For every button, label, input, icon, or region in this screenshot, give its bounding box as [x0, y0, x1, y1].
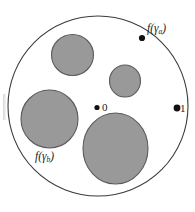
label-f-gamma-b: f(γb) [35, 151, 54, 163]
inner-disk-left [21, 90, 78, 148]
point-f-gamma-a [139, 35, 145, 41]
label-f-gamma-a: f(γa) [147, 23, 166, 35]
label-f-gamma-a-close: ) [162, 22, 166, 34]
inner-disk-bottom [83, 113, 148, 184]
scan-artifact [3, 94, 6, 120]
inner-disk-top [52, 35, 94, 76]
inner-disk-small [110, 65, 141, 97]
label-f-gamma-a-func: f(γ [147, 22, 159, 34]
figure-container: f(γa) f(γb) 0 1 [0, 0, 195, 212]
label-f-gamma-b-close: ) [50, 150, 54, 162]
label-f-gamma-b-func: f(γ [35, 150, 47, 162]
label-origin: 0 [102, 102, 108, 113]
label-one: 1 [180, 103, 186, 114]
point-zero [94, 105, 99, 110]
